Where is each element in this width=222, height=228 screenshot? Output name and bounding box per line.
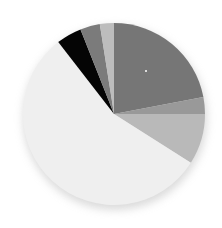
center-dot — [145, 70, 147, 72]
pie-chart-svg — [0, 0, 222, 228]
pie-chart — [0, 0, 222, 228]
pie-slices — [23, 23, 205, 205]
